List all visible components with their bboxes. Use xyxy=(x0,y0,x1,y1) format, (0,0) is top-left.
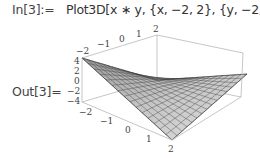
svg-text:−2: −2 xyxy=(79,107,92,117)
svg-text:1: 1 xyxy=(136,29,142,39)
svg-text:4: 4 xyxy=(74,56,80,66)
svg-text:1: 1 xyxy=(146,134,152,144)
svg-text:−1: −1 xyxy=(97,39,110,49)
surface xyxy=(82,58,247,140)
plot3d-graphic[interactable]: −2 −1 0 1 2 4 2 0 −2 −4 −2 −1 0 1 2 xyxy=(0,0,260,158)
svg-text:−1: −1 xyxy=(100,116,113,126)
svg-text:0: 0 xyxy=(119,34,125,44)
svg-text:0: 0 xyxy=(74,76,80,86)
svg-text:−2: −2 xyxy=(76,46,89,56)
svg-text:2: 2 xyxy=(153,24,159,34)
svg-text:−4: −4 xyxy=(67,96,81,106)
svg-text:−2: −2 xyxy=(67,86,80,96)
back-axis-ticks: −2 −1 0 1 2 xyxy=(76,24,159,56)
svg-text:0: 0 xyxy=(125,125,131,135)
svg-text:2: 2 xyxy=(168,144,174,154)
svg-text:2: 2 xyxy=(74,66,80,76)
z-axis-ticks: 4 2 0 −2 −4 xyxy=(67,56,81,106)
